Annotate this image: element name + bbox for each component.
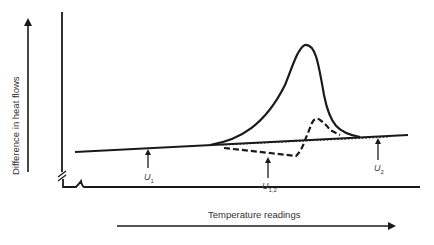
axis-break-mark: [58, 171, 66, 181]
x-axis-label: Temperature readings: [208, 209, 300, 220]
y-axis-label: Difference in heat flows: [10, 76, 21, 175]
marker-subscript: 2: [381, 169, 384, 175]
marker-subscript: 1,2: [269, 187, 277, 193]
marker-u2-label: U2: [374, 163, 384, 175]
marker-u1-label: U1: [144, 172, 154, 184]
dashed-curve: [224, 119, 340, 156]
marker-subscript: 1: [151, 178, 154, 184]
marker-u12-label: U1,2: [262, 181, 277, 193]
solid-peak-curve: [210, 45, 360, 145]
x-axis-line: [63, 179, 420, 187]
